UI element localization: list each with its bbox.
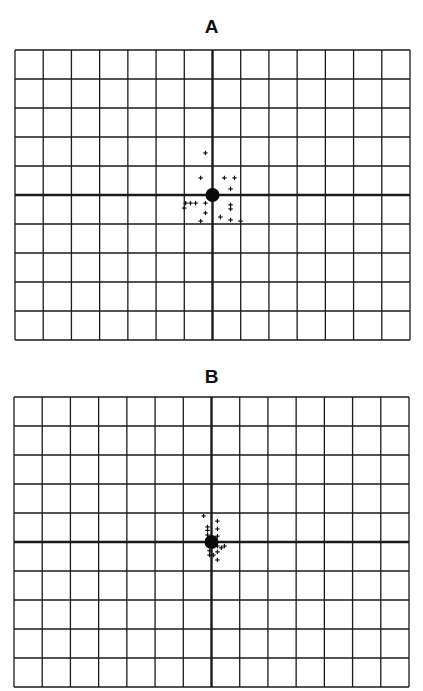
center-marker-icon	[205, 535, 219, 549]
grid-chart-b	[0, 0, 423, 691]
